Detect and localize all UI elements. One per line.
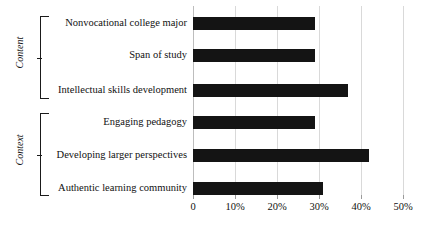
xtick-mark (403, 195, 404, 199)
xtick-mark (235, 195, 236, 199)
horizontal-bar-chart: Content Context Nonvocational college ma… (0, 0, 423, 230)
group-label-content: Content (4, 48, 34, 68)
group-label-context-text: Context (14, 136, 25, 166)
gridline-30 (319, 6, 320, 195)
gridline-20 (277, 6, 278, 195)
category-axis: Nonvocational college major Span of stud… (50, 0, 187, 195)
group-label-content-text: Content (14, 39, 25, 69)
xtick-label: 20% (267, 201, 286, 212)
bar-authentic-learning-community (193, 182, 323, 195)
group-bracket-context (40, 113, 49, 196)
xtick-mark (277, 195, 278, 199)
bar-span-of-study (193, 49, 315, 62)
category-label: Nonvocational college major (65, 18, 187, 29)
category-label: Engaging pedagogy (103, 117, 187, 128)
bar-engaging-pedagogy (193, 116, 315, 129)
gridline-10 (235, 6, 236, 195)
category-label: Developing larger perspectives (57, 150, 187, 161)
gridline-40 (361, 6, 362, 195)
category-label: Authentic learning community (58, 183, 187, 194)
group-bracket-tick (37, 155, 42, 157)
gridline-50 (403, 6, 404, 195)
xtick-label: 10% (225, 201, 244, 212)
group-bracket-content (40, 16, 49, 99)
bar-developing-larger-perspectives (193, 149, 369, 162)
gridline-0 (193, 6, 194, 195)
xtick-mark (361, 195, 362, 199)
plot-area (193, 6, 403, 195)
xtick-mark (193, 195, 194, 199)
xtick-label: 50% (393, 201, 412, 212)
xtick-label: 0 (190, 201, 195, 212)
category-label: Intellectual skills development (58, 85, 187, 96)
group-bracket-tick (37, 58, 42, 60)
xtick-label: 30% (309, 201, 328, 212)
group-label-context: Context (4, 145, 34, 165)
bar-nonvocational-college-major (193, 17, 315, 30)
xtick-mark (319, 195, 320, 199)
bar-intellectual-skills-development (193, 84, 348, 97)
xtick-label: 40% (351, 201, 370, 212)
category-label: Span of study (129, 50, 187, 61)
